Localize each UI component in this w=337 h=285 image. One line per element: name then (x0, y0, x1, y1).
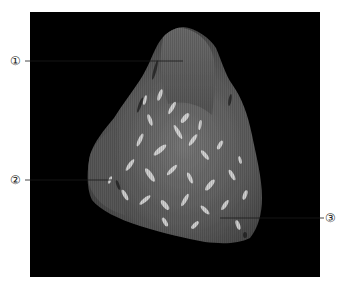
callout-label-2: ② (8, 174, 22, 186)
callout-label-3: ③ (323, 212, 337, 224)
tissue-body (80, 20, 270, 250)
callout-label-1: ① (8, 55, 22, 67)
